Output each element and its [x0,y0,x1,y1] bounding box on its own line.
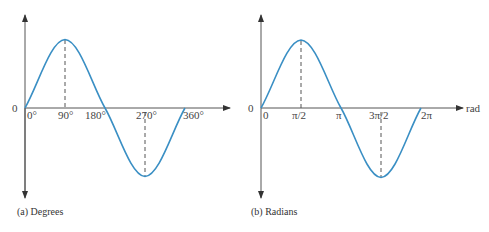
tick-0: 0 [263,109,269,121]
radians-chart: 0 0 π/2 π 3π/2 2π rad (b) Radians [248,15,481,218]
origin-label: 0 [12,102,18,114]
tick-pi-2: π/2 [292,109,306,121]
tick-270: 270° [136,109,157,121]
tick-3pi-2: 3π/2 [369,109,389,121]
tick-90: 90° [58,109,73,121]
caption-degrees: (a) Degrees [17,206,63,218]
axis-unit-rad: rad [466,102,481,114]
tick-2pi: 2π [421,109,433,121]
tick-180: 180° [85,109,106,121]
sine-figures: 0 0° 90° 180° 270° 360° (a) Degrees 0 0 … [0,0,489,232]
tick-pi: π [336,109,342,121]
tick-0: 0° [27,109,37,121]
tick-360: 360° [183,109,204,121]
origin-label: 0 [248,102,254,114]
degrees-chart: 0 0° 90° 180° 270° 360° (a) Degrees [12,15,230,218]
caption-radians: (b) Radians [251,206,297,218]
